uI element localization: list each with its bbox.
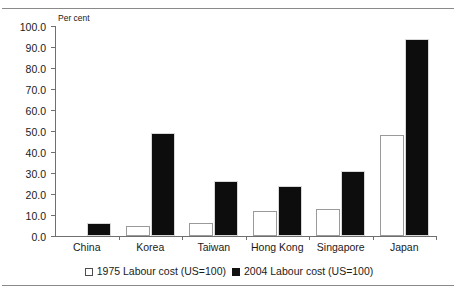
x-axis-tick — [246, 236, 247, 240]
bar-1975 — [316, 209, 340, 236]
chart-title — [0, 0, 458, 4]
bar-group: China — [55, 26, 119, 236]
bar-group: Japan — [373, 26, 437, 236]
y-axis-tick-label: 10.0 — [26, 211, 46, 222]
open-square-icon — [85, 268, 93, 276]
filled-square-icon — [232, 268, 240, 276]
x-axis-tick — [436, 236, 437, 240]
chart-legend: 1975 Labour cost (US=100) 2004 Labour co… — [0, 264, 458, 277]
bar-2004 — [151, 133, 175, 236]
x-axis-category-label: Singapore — [317, 241, 365, 253]
y-axis-tick-label: 30.0 — [26, 169, 46, 180]
legend-label-1975: 1975 Labour cost (US=100) — [97, 265, 226, 277]
x-axis-tick — [182, 236, 183, 240]
x-axis-tick — [373, 236, 374, 240]
bar-group: Korea — [119, 26, 183, 236]
bar-2004 — [278, 186, 302, 236]
x-axis-category-label: Hong Kong — [251, 241, 304, 253]
y-axis-tick-label: 20.0 — [26, 190, 46, 201]
bottom-divider — [2, 285, 454, 286]
y-axis-tick-label: 80.0 — [26, 64, 46, 75]
y-axis-tick-label: 100.0 — [20, 22, 46, 33]
y-axis-tick-label: 50.0 — [26, 127, 46, 138]
bar-2004 — [405, 39, 429, 236]
legend-item-2004: 2004 Labour cost (US=100) — [232, 265, 373, 277]
plot-area: Per cent 0.010.020.030.040.050.060.070.0… — [55, 26, 436, 236]
legend-item-1975: 1975 Labour cost (US=100) — [85, 265, 226, 277]
bar-1975 — [189, 223, 213, 236]
bar-group: Taiwan — [182, 26, 246, 236]
y-axis-tick-label: 60.0 — [26, 106, 46, 117]
x-axis-category-label: Korea — [136, 241, 164, 253]
x-axis-tick — [119, 236, 120, 240]
y-axis-tick: 0.0 — [51, 236, 55, 237]
x-axis-category-label: Taiwan — [197, 241, 230, 253]
bar-1975 — [380, 135, 404, 236]
y-axis-tick-label: 70.0 — [26, 85, 46, 96]
x-axis-category-label: Japan — [390, 241, 419, 253]
top-divider — [2, 8, 454, 9]
legend-label-2004: 2004 Labour cost (US=100) — [244, 265, 373, 277]
bar-chart-figure: Per cent 0.010.020.030.040.050.060.070.0… — [0, 0, 458, 292]
bar-1975 — [253, 211, 277, 236]
y-axis-tick-label: 90.0 — [26, 43, 46, 54]
y-axis-unit-label: Per cent — [58, 13, 90, 23]
x-axis-tick — [309, 236, 310, 240]
x-axis-category-label: China — [73, 241, 100, 253]
bar-2004 — [341, 171, 365, 236]
bar-2004 — [214, 181, 238, 236]
bar-2004 — [87, 223, 111, 236]
y-axis-tick-label: 0.0 — [31, 232, 46, 243]
bar-1975 — [126, 226, 150, 237]
bar-group: Singapore — [309, 26, 373, 236]
bar-group: Hong Kong — [246, 26, 310, 236]
y-axis-tick-label: 40.0 — [26, 148, 46, 159]
